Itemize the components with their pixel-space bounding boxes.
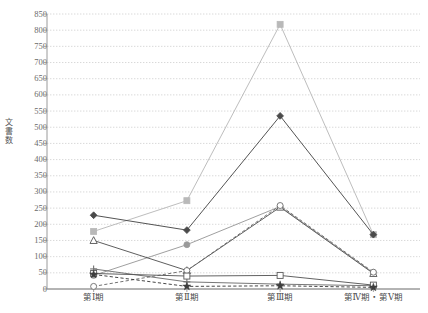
marker-triangle-open: [90, 237, 97, 244]
marker-circle-open: [277, 203, 283, 209]
line-chart: 文書数 050100150200250300350400450500550600…: [0, 0, 428, 313]
series-line: [94, 24, 374, 234]
marker-square: [184, 198, 190, 204]
marker-square-open: [184, 273, 190, 279]
marker-square: [277, 21, 283, 27]
marker-square: [91, 228, 97, 234]
series-open-circle: [91, 203, 377, 290]
x-tick-label: 第Ⅰ期: [83, 292, 104, 302]
marker-square-open: [277, 272, 283, 278]
x-axis-tick-labels: 第Ⅰ期第Ⅱ期第Ⅲ期第Ⅳ期・第Ⅴ期: [47, 292, 417, 312]
series-open-triangle: [90, 203, 377, 276]
x-tick-label: 第Ⅱ期: [175, 292, 199, 302]
marker-star: [276, 282, 284, 290]
plot-area: [0, 0, 428, 313]
series-gray-square: [91, 21, 377, 237]
marker-circle-open: [370, 269, 376, 275]
series-line: [94, 116, 374, 235]
x-tick-label: 第Ⅲ期: [267, 292, 293, 302]
marker-diamond: [90, 212, 97, 219]
marker-circle-filled: [184, 242, 190, 248]
series-black-diamond: [90, 113, 377, 239]
series-line: [94, 207, 374, 276]
series-gray-circle: [91, 204, 377, 279]
series-star: [90, 270, 378, 291]
x-tick-label: 第Ⅳ期・第Ⅴ期: [344, 292, 404, 302]
plot-svg: [0, 0, 428, 313]
marker-circle-open: [91, 283, 97, 289]
series-line: [94, 269, 374, 286]
